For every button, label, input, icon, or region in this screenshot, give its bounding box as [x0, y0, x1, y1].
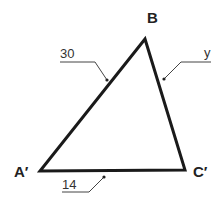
triangle-diagram: B A′ C′ 30 y 14: [0, 0, 223, 211]
vertex-label-c-prime: C′: [193, 163, 208, 180]
side-label-ab: 30: [60, 46, 74, 61]
leader-dot-side-ab: [105, 78, 108, 81]
leader-line-side-bc: [164, 62, 211, 79]
side-label-bc: y: [204, 45, 211, 60]
leader-dot-side-bc: [162, 77, 165, 80]
vertex-label-b: B: [147, 9, 158, 26]
vertex-label-a-prime: A′: [14, 163, 29, 180]
leader-line-side-ab: [60, 62, 107, 80]
leader-dot-side-ac: [102, 175, 105, 178]
side-label-ac: 14: [62, 177, 76, 192]
